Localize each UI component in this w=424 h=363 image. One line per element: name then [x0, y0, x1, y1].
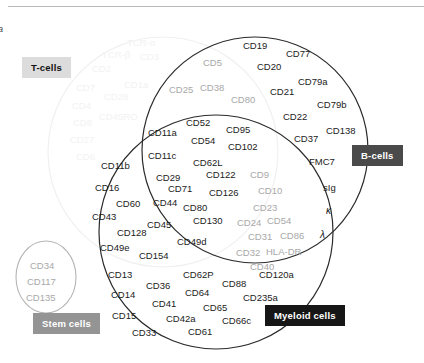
marker-bcell-myeloid: CD23	[253, 203, 277, 213]
marker-shared-core: CD44	[153, 198, 177, 208]
marker-tcell-bcell: CD25	[169, 85, 193, 95]
marker-myeloid: CD42a	[166, 314, 196, 324]
marker-myeloid: CD13	[108, 270, 132, 280]
marker-bcell: CD77	[286, 49, 310, 59]
marker-shared-core: CD52	[186, 118, 210, 128]
marker-shared-core: CD16	[95, 183, 119, 193]
marker-myeloid: CD62P	[183, 270, 214, 280]
marker-myeloid: CD33	[132, 328, 156, 338]
marker-stemcell: CD34	[30, 261, 54, 271]
marker-shared-core: CD126	[209, 188, 239, 198]
figure-canvas: a T-cells B-cells Stem cells Myeloid cel…	[0, 0, 424, 363]
marker-bcell-myeloid: CD32	[236, 248, 260, 258]
marker-myeloid: CD65	[203, 303, 227, 313]
marker-bcell-myeloid: CD31	[248, 232, 272, 242]
group-label-bcells[interactable]: B-cells	[352, 145, 403, 166]
marker-bcell: κ	[326, 206, 331, 216]
marker-myeloid: CD14	[111, 290, 135, 300]
marker-shared-core: CD11c	[148, 151, 176, 161]
marker-bcell-myeloid: CD10	[258, 186, 282, 196]
marker-bcell-myeloid: CD86	[280, 231, 304, 241]
marker-bcell: CD79a	[298, 77, 328, 87]
marker-tcell: CD28	[104, 92, 128, 102]
marker-myeloid: CD61	[188, 327, 212, 337]
marker-shared-core: CD60	[116, 199, 140, 209]
marker-bcell: CD21	[270, 87, 294, 97]
marker-bcell: CD79b	[317, 100, 347, 110]
marker-bcell-myeloid: CD9	[250, 170, 269, 180]
marker-myeloid: CD15	[112, 311, 136, 321]
marker-shared-core: CD71	[168, 184, 192, 194]
marker-shared-core: CD62L	[193, 158, 223, 168]
marker-tcell-bcell: CD5	[203, 58, 222, 68]
marker-shared-core: CD11b	[101, 161, 130, 171]
marker-stemcell: CD117	[27, 277, 56, 287]
marker-bcell: CD138	[326, 126, 356, 136]
marker-shared-core: CD49e	[100, 243, 130, 253]
marker-shared-core: CD122	[206, 170, 236, 180]
marker-myeloid: CD64	[185, 288, 209, 298]
marker-bcell: CD20	[257, 62, 281, 72]
marker-myeloid: CD36	[146, 281, 170, 291]
marker-myeloid: CD41	[152, 299, 176, 309]
marker-bcell: sIg	[323, 183, 336, 193]
marker-shared-core: CD49d	[177, 237, 207, 247]
marker-tcell: CD6	[76, 152, 95, 162]
marker-shared-core: CD130	[193, 216, 223, 226]
marker-tcell-bcell: CD38	[200, 83, 224, 93]
marker-tcell: CD7	[76, 83, 95, 93]
marker-shared-core: CD128	[117, 228, 147, 238]
marker-tcell: CD27	[70, 135, 94, 145]
marker-myeloid: CD120a	[259, 270, 294, 280]
marker-bcell: CD37	[294, 134, 318, 144]
group-label-myeloid[interactable]: Myeloid cells	[265, 305, 345, 326]
marker-myeloid: CD235a	[243, 293, 278, 303]
marker-bcell: CD19	[243, 41, 267, 51]
marker-tcell: CD45RO	[99, 112, 138, 122]
marker-bcell: FMC7	[309, 157, 335, 167]
marker-tcell: CD8	[73, 118, 92, 128]
marker-shared-core: CD80	[183, 203, 207, 213]
group-label-tcells[interactable]: T-cells	[22, 57, 71, 78]
marker-tcell: CD3	[140, 52, 159, 62]
group-label-stemcells[interactable]: Stem cells	[33, 313, 100, 334]
marker-shared-core: CD102	[228, 142, 258, 152]
marker-myeloid: CD88	[222, 279, 246, 289]
marker-tcell: TCR-β	[102, 50, 130, 60]
marker-shared-core: CD45	[147, 220, 171, 230]
marker-shared-core: CD11a	[148, 128, 177, 138]
marker-bcell: λ	[320, 230, 325, 240]
marker-tcell: CD1a	[124, 80, 148, 90]
marker-shared-core: CD43	[92, 212, 116, 222]
marker-stemcell: CD135	[26, 293, 56, 303]
marker-myeloid: CD66c	[222, 316, 251, 326]
marker-bcell-myeloid: CD54	[267, 216, 291, 226]
marker-tcell-bcell: CD80	[231, 95, 255, 105]
marker-shared-core: CD29	[156, 173, 180, 183]
marker-bcell: CD22	[283, 112, 307, 122]
marker-tcell: CD2	[92, 64, 111, 74]
marker-tcell: TCR-α	[127, 38, 155, 48]
marker-shared-core: CD95	[226, 125, 250, 135]
marker-bcell-myeloid: HLA-DR	[266, 247, 301, 257]
marker-shared-core: CD54	[191, 136, 215, 146]
marker-bcell-myeloid: CD24	[237, 218, 261, 228]
marker-tcell: CD4	[72, 101, 91, 111]
marker-shared-core: CD154	[139, 251, 169, 261]
